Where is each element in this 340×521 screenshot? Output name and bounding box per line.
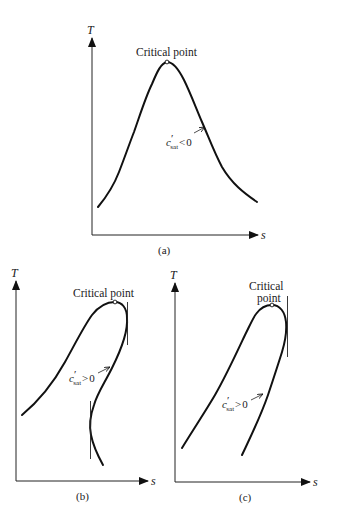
x-axis-label: s (261, 228, 266, 242)
panel-caption: (b) (76, 490, 89, 503)
slope-pointer-arrow (98, 367, 110, 373)
y-axis-label: T (11, 266, 19, 280)
critical-point-label: Critical point (136, 46, 198, 59)
critical-point-label: Critical point (73, 287, 135, 300)
slope-label: c′sat>0 (222, 394, 248, 413)
slope-label: c′sat<0 (166, 132, 192, 151)
panel-a: T s Critical point c′sat<0 (a) (87, 23, 266, 257)
panel-b: T s Critical point c′sat>0 (b) (11, 266, 156, 503)
x-axis-label: s (151, 474, 156, 488)
slope-label: c′sat>0 (69, 368, 95, 387)
saturation-dome-curve (182, 305, 286, 455)
critical-point-marker (113, 300, 117, 304)
critical-point-marker (165, 60, 169, 64)
panel-caption: (a) (158, 244, 171, 257)
y-axis-label: T (170, 268, 178, 282)
critical-point-label-line1: Critical (249, 280, 284, 292)
critical-point-label-line2: point (257, 292, 281, 305)
ts-diagram-figure: T s Critical point c′sat<0 (a) T s Criti… (0, 0, 340, 521)
y-axis-label: T (87, 23, 95, 37)
slope-pointer-arrow (251, 394, 263, 400)
x-axis-label: s (313, 475, 318, 489)
panel-c: T s Critical point c′sat>0 (c) (170, 268, 318, 504)
slope-pointer-arrow (194, 127, 205, 133)
panel-caption: (c) (239, 491, 252, 504)
saturation-dome-curve (98, 62, 257, 207)
